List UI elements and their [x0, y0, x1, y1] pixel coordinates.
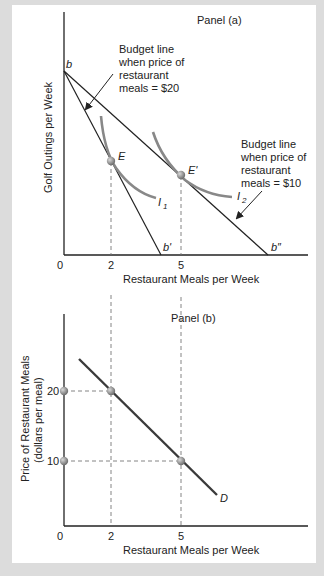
- panel-a-title: Panel (a): [197, 14, 242, 26]
- point-e: [107, 157, 115, 165]
- panel-a-tick-5: 5: [178, 259, 184, 271]
- svg-text:when price of: when price of: [118, 56, 185, 68]
- svg-text:I: I: [158, 196, 161, 208]
- point-axis-10: [60, 457, 68, 465]
- panel-b-tick-20: 20: [47, 385, 59, 397]
- point-demand-10: [177, 457, 185, 465]
- point-axis-20: [60, 387, 68, 395]
- figure-svg: Panel (a) b E E' b' b″ I 1 I 2 B: [0, 0, 324, 576]
- demand-curve-d: [79, 359, 217, 495]
- panel-b-title: Panel (b): [171, 312, 216, 324]
- arrow-budget-10: [237, 191, 262, 218]
- panel-b-x-label: Restaurant Meals per Week: [123, 544, 260, 556]
- panel-b-tick-10: 10: [47, 455, 59, 467]
- svg-text:meals = $10: meals = $10: [241, 177, 301, 189]
- panel-a-tick-0: 0: [57, 259, 63, 271]
- svg-text:restaurant: restaurant: [241, 164, 291, 176]
- label-b-double-prime: b″: [271, 241, 282, 253]
- svg-text:1: 1: [163, 202, 167, 211]
- panel-a-tick-2: 2: [108, 259, 114, 271]
- panel-b: Panel (b) D 20 10 0 2 5 Restaurant Meals…: [19, 295, 308, 556]
- label-d: D: [220, 492, 228, 504]
- panel-b-tick-5: 5: [178, 530, 184, 542]
- panel-b-y-label-2: (dollars per meal): [32, 377, 44, 463]
- point-demand-20: [107, 387, 115, 395]
- panel-a-x-label: Restaurant Meals per Week: [123, 273, 260, 285]
- svg-text:Budget line: Budget line: [119, 43, 174, 55]
- label-e-prime: E': [188, 164, 198, 176]
- svg-text:2: 2: [241, 196, 247, 205]
- svg-text:restaurant: restaurant: [119, 69, 169, 81]
- indifference-curve-i1: [101, 116, 156, 198]
- label-b: b: [66, 58, 72, 70]
- annotation-budget-20: Budget line when price of restaurant mea…: [118, 43, 185, 94]
- label-i2: I 2: [237, 190, 247, 205]
- svg-text:meals = $20: meals = $20: [119, 82, 179, 94]
- label-b-prime: b': [163, 241, 172, 253]
- annotation-budget-10: Budget line when price of restaurant mea…: [240, 138, 307, 189]
- panel-b-tick-0: 0: [57, 530, 63, 542]
- svg-text:I: I: [237, 190, 240, 202]
- svg-text:Budget line: Budget line: [241, 138, 296, 150]
- panel-a-y-label: Golf Outings per Week: [42, 81, 54, 193]
- panel-b-tick-2: 2: [108, 530, 114, 542]
- point-e-prime: [177, 171, 185, 179]
- panel-a: Panel (a) b E E' b' b″ I 1 I 2 B: [42, 12, 308, 285]
- svg-text:when price of: when price of: [240, 151, 307, 163]
- label-e: E: [118, 150, 126, 162]
- panel-b-y-label-1: Price of Restaurant Meals: [19, 355, 31, 482]
- label-i1: I 1: [158, 196, 167, 211]
